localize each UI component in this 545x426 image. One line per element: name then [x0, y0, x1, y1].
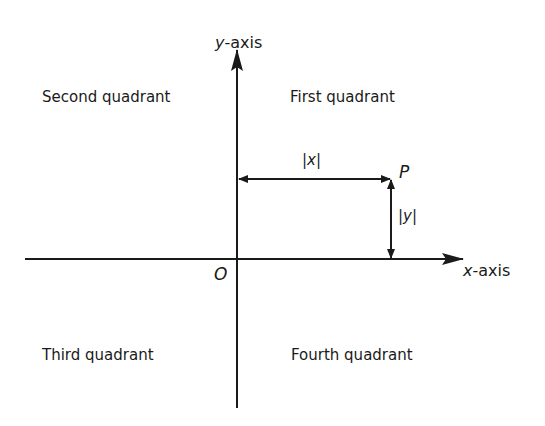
coordinate-diagram: y-axis x-axis O Second quadrant First qu…	[0, 0, 545, 426]
third-quadrant-label: Third quadrant	[42, 348, 154, 363]
y-distance-label: |y|	[398, 209, 417, 224]
y-axis-label: y-axis	[215, 35, 262, 51]
point-p-label: P	[399, 164, 409, 181]
first-quadrant-label: First quadrant	[290, 90, 395, 105]
x-axis-label: x-axis	[463, 263, 510, 279]
origin-label: O	[214, 266, 227, 283]
second-quadrant-label: Second quadrant	[42, 90, 170, 105]
x-distance-label: |x|	[302, 153, 321, 168]
fourth-quadrant-label: Fourth quadrant	[291, 348, 413, 363]
